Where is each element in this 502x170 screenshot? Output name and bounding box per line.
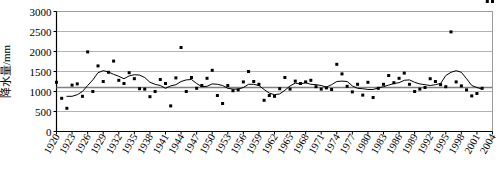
- data-point: [361, 94, 364, 97]
- data-point: [122, 82, 125, 85]
- data-point: [278, 87, 281, 90]
- data-point: [320, 88, 323, 91]
- data-point: [460, 84, 463, 87]
- data-point: [164, 82, 167, 85]
- data-point: [455, 80, 458, 83]
- y-axis-title: 降水量/mm: [0, 44, 12, 98]
- moving-average-line: [67, 71, 482, 97]
- data-point: [169, 104, 172, 107]
- data-point: [190, 76, 193, 79]
- data-point: [465, 88, 468, 91]
- data-point: [377, 87, 380, 90]
- data-point: [133, 77, 136, 80]
- x-axis-tick-labels: 1920192319261929193219351938194119441947…: [42, 131, 498, 155]
- data-point: [154, 90, 157, 93]
- data-points: [55, 0, 494, 110]
- data-point: [174, 76, 177, 79]
- data-point: [112, 60, 115, 63]
- data-point: [398, 77, 401, 80]
- data-point: [206, 77, 209, 80]
- data-point: [382, 83, 385, 86]
- data-point: [387, 74, 390, 77]
- data-point: [268, 94, 271, 97]
- data-point: [439, 83, 442, 86]
- data-point: [86, 50, 89, 53]
- data-point: [180, 46, 183, 49]
- data-point: [475, 92, 478, 95]
- data-point: [294, 80, 297, 83]
- data-point: [107, 71, 110, 74]
- data-point: [340, 72, 343, 75]
- precipitation-chart: 050010001500200025003000 192019231926192…: [0, 0, 502, 170]
- data-point: [91, 90, 94, 93]
- data-point: [351, 90, 354, 93]
- data-point: [392, 81, 395, 84]
- data-point: [325, 86, 328, 89]
- data-point: [247, 70, 250, 73]
- data-point: [71, 84, 74, 87]
- data-point: [434, 80, 437, 83]
- data-point: [226, 84, 229, 87]
- data-point: [413, 90, 416, 93]
- data-point: [148, 95, 151, 98]
- data-point: [200, 84, 203, 87]
- data-point: [138, 87, 141, 90]
- data-point: [159, 78, 162, 81]
- data-point: [242, 80, 245, 83]
- data-point: [470, 94, 473, 97]
- y-tick-label: 1000: [30, 86, 53, 98]
- y-tick-label: 2000: [30, 46, 53, 58]
- data-point: [65, 107, 68, 110]
- data-point: [289, 88, 292, 91]
- data-point: [283, 76, 286, 79]
- y-tick-label: 1500: [30, 66, 53, 78]
- data-point: [128, 71, 131, 74]
- data-point: [486, 0, 489, 3]
- data-point: [81, 95, 84, 98]
- data-point: [143, 88, 146, 91]
- data-point: [449, 30, 452, 33]
- y-tick-label: 3000: [30, 6, 53, 18]
- data-point: [481, 87, 484, 90]
- data-point: [408, 83, 411, 86]
- data-point: [102, 80, 105, 83]
- data-point: [263, 99, 266, 102]
- data-point: [273, 95, 276, 98]
- y-tick-label: 500: [35, 106, 52, 118]
- data-point: [335, 63, 338, 66]
- data-point: [418, 88, 421, 91]
- x-tick-label: 2004: [478, 131, 498, 155]
- y-axis-title-text: 降水量/mm: [0, 44, 12, 98]
- data-point: [185, 90, 188, 93]
- y-axis-tick-labels: 050010001500200025003000: [30, 6, 53, 138]
- data-point: [60, 97, 63, 100]
- data-point: [299, 82, 302, 85]
- plot-frame: [54, 12, 493, 135]
- data-point: [309, 79, 312, 82]
- data-point: [424, 86, 427, 89]
- data-point: [315, 85, 318, 88]
- data-point: [221, 102, 224, 105]
- data-point: [346, 85, 349, 88]
- data-point: [97, 64, 100, 67]
- series-line-moving-average: [67, 71, 482, 97]
- data-point: [429, 77, 432, 80]
- data-point: [257, 83, 260, 86]
- data-point: [330, 88, 333, 91]
- data-point: [216, 94, 219, 97]
- data-point: [372, 96, 375, 99]
- data-point: [55, 81, 58, 84]
- data-point: [76, 82, 79, 85]
- data-point: [231, 89, 234, 92]
- data-point: [366, 81, 369, 84]
- data-point: [211, 69, 214, 72]
- data-point: [304, 80, 307, 83]
- data-point: [237, 88, 240, 91]
- data-point: [117, 79, 120, 82]
- chart-canvas: 050010001500200025003000 192019231926192…: [0, 0, 502, 170]
- data-point: [403, 72, 406, 75]
- data-point: [491, 0, 494, 3]
- data-point: [252, 80, 255, 83]
- data-point: [444, 85, 447, 88]
- y-tick-label: 2500: [30, 26, 53, 38]
